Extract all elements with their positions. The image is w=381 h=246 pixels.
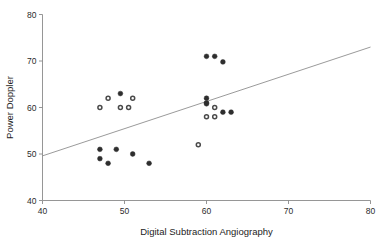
data-point: Measurements: (48, 48): [106, 161, 111, 166]
data-point: Measurements: (61, 58): [213, 115, 217, 119]
data-series: Measurements: (47, 51)Measurements: (47,…: [98, 54, 234, 166]
data-point: Measurements: (61, 71): [212, 54, 217, 59]
data-point: Measurements: (51, 50): [130, 152, 135, 157]
y-tick-label: 60: [27, 103, 37, 113]
x-tick-label: 70: [284, 206, 294, 216]
y-axis-ticks: 4050607080: [27, 10, 42, 206]
data-point: Measurements: (50.5, 60): [127, 106, 131, 110]
y-tick-label: 50: [27, 149, 37, 159]
data-point: Measurements: (53, 48): [147, 161, 152, 166]
scatter-plot-figure: 40506070804050607080Digital Subtraction …: [0, 0, 381, 246]
x-axis-ticks: 4050607080: [38, 201, 376, 217]
data-point: Measurements: (49.5, 63): [118, 91, 123, 96]
data-point: Measurements: (61, 60): [213, 106, 217, 110]
data-point: Measurements: (63, 59): [229, 110, 234, 115]
x-tick-label: 40: [38, 206, 48, 216]
y-tick-label: 40: [27, 196, 37, 206]
data-point: Measurements: (60, 58): [205, 115, 209, 119]
y-tick-label: 80: [27, 10, 37, 20]
x-axis-title: Digital Subtraction Angiography: [140, 226, 273, 237]
data-point: Measurements: (47, 60): [98, 106, 102, 110]
y-tick-label: 70: [27, 56, 37, 66]
data-point: Measurements: (62, 59): [221, 110, 226, 115]
data-point: Measurements: (47, 49): [98, 156, 103, 161]
x-tick-label: 50: [120, 206, 130, 216]
x-tick-label: 60: [202, 206, 212, 216]
data-point: Measurements: (60, 60.8): [204, 101, 209, 106]
x-tick-label: 80: [366, 206, 376, 216]
data-point: Measurements: (60, 62): [204, 96, 209, 101]
data-point: Measurements: (48, 62): [106, 96, 110, 100]
data-point: Measurements: (49.5, 60): [118, 106, 122, 110]
y-axis-title: Power Doppler: [4, 76, 15, 139]
data-point: Measurements: (60, 71): [204, 54, 209, 59]
data-point: Measurements: (51, 62): [131, 96, 135, 100]
data-point: Measurements: (62, 69.8): [221, 60, 226, 65]
plot-canvas: 40506070804050607080Digital Subtraction …: [0, 0, 381, 246]
data-point: Measurements: (59, 52): [196, 143, 200, 147]
data-point: Measurements: (49, 51): [114, 147, 119, 152]
data-point: Measurements: (47, 51): [98, 147, 103, 152]
